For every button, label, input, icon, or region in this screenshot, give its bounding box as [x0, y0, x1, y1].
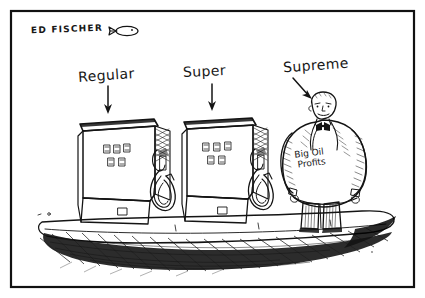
cartoon-illustration: [0, 0, 425, 298]
cartoon-canvas: ED FISCHER Regular Super Supreme Big Oil…: [0, 0, 425, 298]
